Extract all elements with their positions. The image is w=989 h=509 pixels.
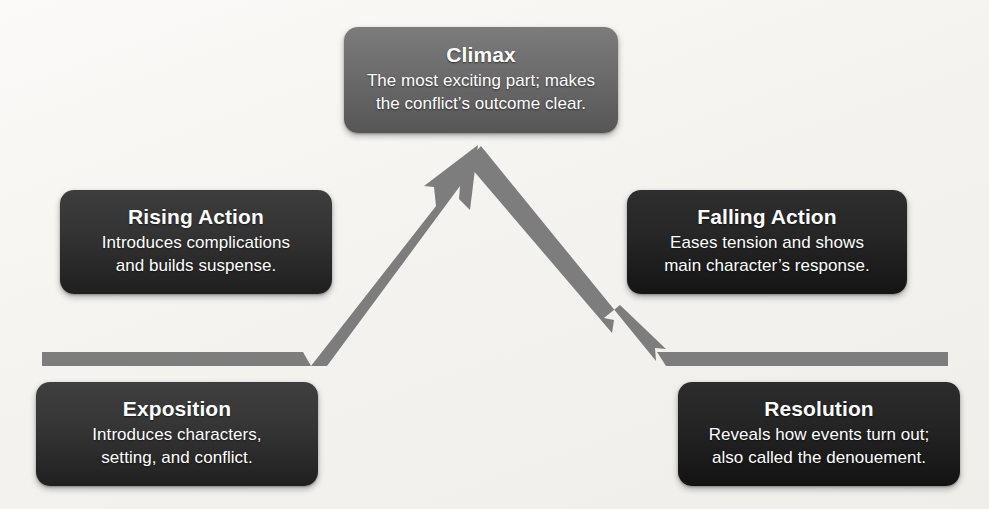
stage-description-line: Introduces complications — [102, 232, 290, 255]
stage-description-line: main character’s response. — [664, 255, 870, 278]
stage-title-rising-action: Rising Action — [128, 205, 264, 230]
stage-description-line: and builds suspense. — [102, 255, 290, 278]
stage-box-climax[interactable]: Climax The most exciting part; makes the… — [344, 27, 618, 133]
stage-description-resolution: Reveals how events turn out; also called… — [709, 424, 930, 469]
stage-box-rising-action[interactable]: Rising Action Introduces complications a… — [60, 190, 332, 294]
plot-diagram: Climax The most exciting part; makes the… — [0, 0, 989, 509]
stage-description-line: also called the denouement. — [709, 447, 930, 470]
stage-description-line: Eases tension and shows — [664, 232, 870, 255]
stage-box-falling-action[interactable]: Falling Action Eases tension and shows m… — [627, 190, 907, 294]
stage-title-climax: Climax — [446, 43, 515, 68]
stage-title-falling-action: Falling Action — [697, 205, 836, 230]
stage-description-falling-action: Eases tension and shows main character’s… — [664, 232, 870, 277]
stage-description-line: setting, and conflict. — [92, 447, 261, 470]
stage-description-line: The most exciting part; makes — [367, 70, 595, 93]
stage-box-exposition[interactable]: Exposition Introduces characters, settin… — [36, 382, 318, 486]
baseline-right-segment — [657, 352, 948, 366]
stage-title-resolution: Resolution — [764, 397, 874, 422]
stage-description-climax: The most exciting part; makes the confli… — [367, 70, 595, 115]
stage-description-line: the conflict’s outcome clear. — [367, 93, 595, 116]
stage-description-rising-action: Introduces complications and builds susp… — [102, 232, 290, 277]
stage-title-exposition: Exposition — [123, 397, 231, 422]
baseline-left-segment — [42, 352, 311, 366]
stage-description-line: Introduces characters, — [92, 424, 261, 447]
stage-description-line: Reveals how events turn out; — [709, 424, 930, 447]
stage-description-exposition: Introduces characters, setting, and conf… — [92, 424, 261, 469]
stage-box-resolution[interactable]: Resolution Reveals how events turn out; … — [678, 382, 960, 486]
